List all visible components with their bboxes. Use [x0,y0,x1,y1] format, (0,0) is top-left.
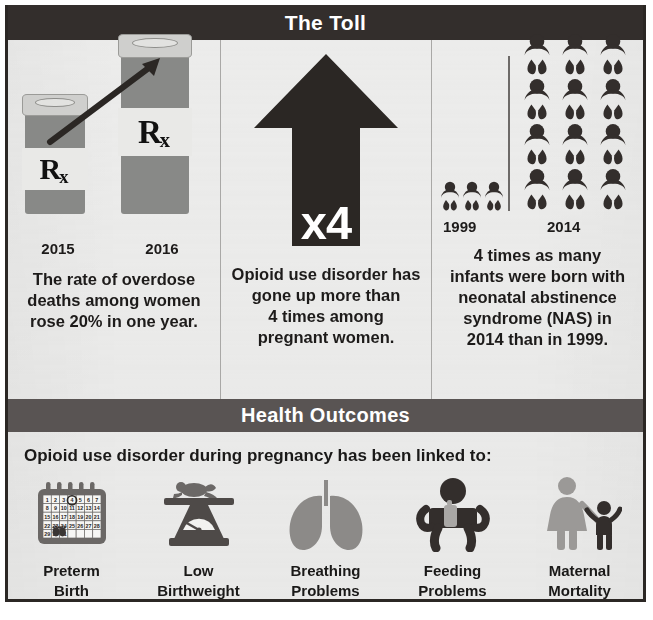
baby-icon [519,78,555,120]
outcome-label: Maternal Mortality [548,561,611,601]
svg-text:10: 10 [60,505,66,511]
caption-line: neonatal abstinence [450,287,625,308]
svg-text:20: 20 [85,514,91,520]
label-line: Problems [418,581,486,601]
up-arrow-illustration: x4 [246,50,406,250]
baby-icon [595,33,631,75]
pill-bottles-illustration: Rx Rx [14,50,214,240]
baby-icon [595,123,631,165]
caption-line: 4 times among [232,306,421,327]
svg-text:27: 27 [85,523,91,529]
panel-nas-births: 1999 2014 4 times as many infants were b… [432,40,643,399]
baby-icon [557,33,593,75]
baby-pictogram [595,123,633,166]
caption-line: The rate of overdose [27,269,200,290]
baby-icon [557,123,593,165]
calendar-icon: 1234567891011121314151617181920212223242… [35,480,109,552]
baby-icon [557,168,593,210]
multiplier-label: x4 [246,199,406,246]
baby-pictogram [557,168,595,211]
bottle-rx-label: Rx [118,108,192,156]
caption-line: rose 20% in one year. [27,311,200,332]
svg-text:29: 29 [44,531,50,537]
svg-text:11: 11 [69,505,75,511]
outcome-maternal-mortality: Maternal Mortality [520,478,640,601]
svg-text:12: 12 [77,505,83,511]
section-title-text: The Toll [285,11,366,35]
bottle-rx-label: Rx [22,148,88,190]
panel-caption-overdose: The rate of overdose deaths among women … [19,269,208,332]
pill-bottle-2015-icon: Rx [22,94,88,214]
caption-line: deaths among women [27,290,200,311]
pictogram-divider [508,56,510,211]
baby-group-1999 [439,179,505,211]
baby-icon [519,123,555,165]
label-line: Preterm [43,561,100,581]
baby-icon [519,168,555,210]
panel-overdose-deaths: Rx Rx 2015 2016 [8,40,220,399]
baby-icon [595,168,631,210]
svg-text:15: 15 [44,514,50,520]
year-label-1999: 1999 [443,218,476,235]
caption-line: infants were born with [450,266,625,287]
svg-text:2: 2 [53,497,56,503]
baby-group-2014 [519,31,633,211]
outcome-label: Low Birthweight [157,561,240,601]
label-line: Maternal [548,561,611,581]
rx-glyph: Rx [138,114,172,151]
label-line: Feeding [418,561,486,581]
year-label-2016: 2016 [110,240,214,257]
outcome-feeding-problems: Feeding Problems [393,478,513,601]
child-figure [587,501,620,550]
baby-icon [595,78,631,120]
svg-text:26: 26 [77,523,83,529]
svg-text:3: 3 [62,497,65,503]
baby-pictogram [557,33,595,76]
baby-bottle-icon [416,478,490,552]
baby-pictogram [519,33,557,76]
caption-line: 4 times as many [450,245,625,266]
outcomes-lede-text: Opioid use disorder during pregnancy has… [24,446,643,466]
bottle-cap [118,34,192,58]
scale-icon [160,478,238,552]
svg-text:21: 21 [93,514,99,520]
bottle-shape [444,500,457,527]
year-label-2014: 2014 [547,218,580,235]
outcome-preterm-birth: 1234567891011121314151617181920212223242… [12,478,132,601]
pill-bottle-2016-icon: Rx [118,34,192,214]
baby-pictogram [439,181,461,211]
caption-line: gone up more than [232,285,421,306]
baby-pictogram [557,78,595,121]
baby-icon [483,181,505,211]
outcome-icon-slot [538,478,622,552]
svg-text:13: 13 [85,505,91,511]
svg-text:28: 28 [93,523,99,529]
baby-pictogram [461,181,483,211]
label-line: Low [157,561,240,581]
label-line: Mortality [548,581,611,601]
outcome-icon-slot: 1234567891011121314151617181920212223242… [35,478,109,552]
baby-pictogram [595,78,633,121]
svg-text:8: 8 [45,505,48,511]
caption-line: Opioid use disorder has [232,264,421,285]
baby-pictogram-chart: 1999 2014 [435,48,640,233]
rx-glyph: Rx [40,152,71,186]
outcome-breathing-problems: Breathing Problems [266,478,386,601]
section-title-text: Health Outcomes [241,404,410,427]
label-line: Problems [290,581,360,601]
infographic-frame: The Toll Rx Rx [5,5,646,602]
label-line: Birth [43,581,100,601]
baby-icon [461,181,483,211]
outcome-label: Breathing Problems [290,561,360,601]
panel-opioid-use-disorder: x4 Opioid use disorder has gone up more … [220,40,432,399]
baby-pictogram [595,168,633,211]
bottle-year-labels: 2015 2016 [14,240,214,257]
bottle-cap [22,94,88,116]
health-outcomes-section: Opioid use disorder during pregnancy has… [8,432,643,599]
baby-pictogram [519,78,557,121]
baby-icon [557,78,593,120]
baby-pictogram [595,33,633,76]
svg-text:16: 16 [52,514,58,520]
outcome-label: Preterm Birth [43,561,100,601]
baby-pictogram [557,123,595,166]
